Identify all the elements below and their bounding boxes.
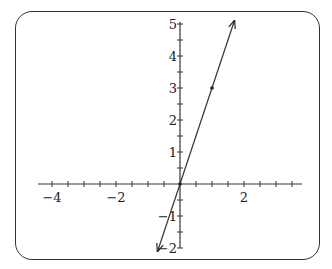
x-tick-label: −4 bbox=[42, 190, 61, 205]
y-tick-label: 3 bbox=[169, 81, 177, 96]
y-tick-label: 4 bbox=[169, 49, 177, 64]
y-tick-label: 1 bbox=[169, 145, 177, 160]
coordinate-plane: −4−2254321−1−2 bbox=[0, 0, 332, 269]
x-tick-label: 2 bbox=[240, 190, 248, 205]
data-point bbox=[178, 182, 182, 186]
x-tick-label: −2 bbox=[106, 190, 125, 205]
data-point bbox=[210, 86, 214, 90]
tick-labels: −4−2254321−1−2 bbox=[42, 17, 248, 256]
y-tick-label: 5 bbox=[169, 17, 177, 32]
y-tick-label: 2 bbox=[169, 113, 177, 128]
